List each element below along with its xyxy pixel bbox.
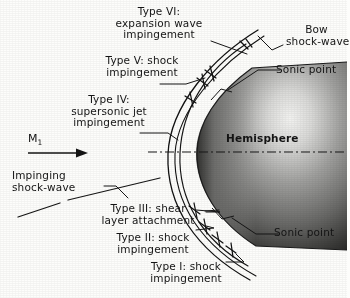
label-sonic-point-upper: Sonic point <box>276 64 350 76</box>
mach-symbol: M <box>28 132 38 145</box>
mach-subscript: 1 <box>38 138 43 147</box>
label-sonic-point-lower: Sonic point <box>274 227 348 239</box>
label-hemisphere: Hemisphere <box>226 133 298 145</box>
label-type-i: Type I: shock impingement <box>132 261 240 284</box>
label-type-iii: Type III: shear layer attachment <box>88 203 208 226</box>
label-bow-shock-wave: Bow shock-wave <box>286 24 347 47</box>
label-type-vi: Type VI: expansion wave impingement <box>100 6 218 41</box>
label-impinging-shock-wave: Impinging shock-wave <box>12 170 108 193</box>
label-type-v: Type V: shock impingement <box>82 55 202 78</box>
freestream-arrow <box>28 149 88 158</box>
label-type-ii: Type II: shock impingement <box>98 232 208 255</box>
label-type-iv: Type IV: supersonic jet impingement <box>50 94 168 129</box>
label-mach-number: M1 <box>28 132 42 147</box>
